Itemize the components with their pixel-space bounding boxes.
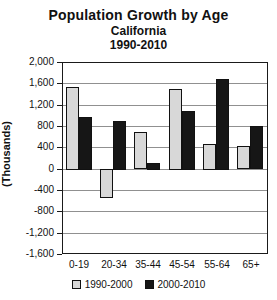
bar-20-34-2000-2010: [113, 121, 126, 170]
population-growth-chart: Population Growth by Age California 1990…: [0, 0, 277, 300]
y-tick-label: 1,600: [0, 77, 54, 89]
legend: 1990-20002000-2010: [0, 279, 277, 290]
gridline: [63, 233, 267, 234]
legend-item-2000-2010: 2000-2010: [145, 279, 206, 290]
y-tick-mark: [57, 190, 62, 191]
y-tick-label: 0: [0, 163, 54, 175]
gridline: [63, 126, 267, 127]
legend-swatch-1990-2000: [72, 280, 81, 289]
y-axis-label: (Thousands): [0, 131, 12, 187]
bar-45-54-2000-2010: [182, 111, 195, 170]
legend-item-1990-2000: 1990-2000: [72, 279, 133, 290]
x-category-label-65+: 65+: [226, 259, 276, 271]
gridline: [63, 211, 267, 212]
gridline: [63, 169, 267, 170]
legend-swatch-2000-2010: [145, 280, 154, 289]
y-tick-label: -400: [0, 184, 54, 196]
y-tick-label: 800: [0, 120, 54, 132]
bar-0-19-2000-2010: [79, 117, 92, 170]
y-tick-mark: [57, 147, 62, 148]
bar-35-44-2000-2010: [147, 163, 160, 170]
y-tick-mark: [57, 126, 62, 127]
bar-45-54-1990-2000: [169, 89, 182, 170]
bar-20-34-1990-2000: [100, 169, 113, 198]
chart-subtitle-region: California: [0, 24, 277, 38]
y-tick-mark: [57, 233, 62, 234]
gridline: [63, 190, 267, 191]
y-tick-label: -1,600: [0, 248, 54, 260]
y-tick-mark: [57, 83, 62, 84]
y-tick-mark: [57, 169, 62, 170]
plot-area: [62, 62, 268, 254]
gridline: [63, 83, 267, 84]
y-tick-label: 400: [0, 141, 54, 153]
legend-label-1990-2000: 1990-2000: [85, 279, 133, 290]
y-tick-mark: [57, 211, 62, 212]
bar-55-64-2000-2010: [216, 79, 229, 170]
bar-0-19-1990-2000: [66, 87, 79, 170]
y-tick-label: -1,200: [0, 227, 54, 239]
y-tick-label: -800: [0, 205, 54, 217]
legend-label-2000-2010: 2000-2010: [158, 279, 206, 290]
bar-35-44-1990-2000: [134, 132, 147, 169]
y-tick-label: 2,000: [0, 56, 54, 68]
y-tick-label: 1,200: [0, 99, 54, 111]
bar-65+-2000-2010: [250, 126, 263, 169]
bar-65+-1990-2000: [237, 146, 250, 169]
chart-subtitle-period: 1990-2010: [0, 38, 277, 52]
y-tick-mark: [57, 254, 62, 255]
y-tick-mark: [57, 62, 62, 63]
y-tick-mark: [57, 105, 62, 106]
bar-55-64-1990-2000: [203, 144, 216, 170]
chart-title: Population Growth by Age: [0, 7, 277, 23]
gridline: [63, 105, 267, 106]
